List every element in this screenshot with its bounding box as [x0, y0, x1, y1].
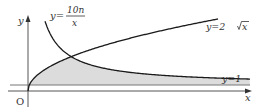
y-axis-label: y [17, 15, 24, 26]
sqrt-radicand: x [242, 21, 248, 32]
line-y1-label: y=1 [221, 73, 241, 84]
sqrt-label-lhs: y=2 [205, 21, 225, 32]
hyperbola-denominator: x [72, 18, 77, 28]
hyperbola-label-lhs: y= [49, 10, 64, 21]
hyperbola-numerator: 10n [67, 5, 84, 15]
y-axis-arrow-icon [26, 15, 31, 22]
origin-label: O [16, 96, 24, 107]
x-axis-label: x [245, 92, 251, 103]
graph-diagram: y x O y= 10n x y=2 x y=1 [0, 0, 261, 111]
